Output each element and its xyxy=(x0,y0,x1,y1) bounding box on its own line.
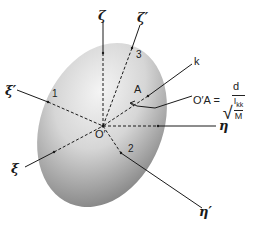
formula-fraction: d √ Ikk M xyxy=(223,80,245,121)
origin-label: O′ xyxy=(95,129,106,140)
point-2 xyxy=(120,152,122,154)
point-a-label: A xyxy=(134,84,141,95)
eta-prime-label: η′ xyxy=(199,205,212,218)
formula-radicand: Ikk M xyxy=(232,95,246,121)
zeta-prime-axis-outer xyxy=(132,25,140,48)
point-a xyxy=(147,95,149,97)
axis-number-1: 1 xyxy=(52,89,58,99)
formula-denominator: √ Ikk M xyxy=(223,93,245,121)
zeta-label: ζ xyxy=(98,9,106,22)
point-1 xyxy=(47,101,49,103)
inertia-subscript: kk xyxy=(236,101,243,108)
zeta-prime-label: ζ′ xyxy=(137,11,148,24)
k-label: k xyxy=(194,56,200,67)
radicand-denominator: M xyxy=(234,110,244,121)
moment-formula: O′A = d √ Ikk M xyxy=(193,80,245,121)
axis-number-3: 3 xyxy=(136,50,142,60)
formula-lhs: O′A = xyxy=(193,94,220,106)
radicand-numerator: Ikk xyxy=(234,96,244,110)
zeta-surface-point xyxy=(102,52,104,54)
formula-numerator: d xyxy=(223,80,245,93)
axis-number-2: 2 xyxy=(128,144,134,154)
eta-surface-point xyxy=(157,125,159,127)
xi-label: ξ xyxy=(11,162,19,175)
point-3 xyxy=(131,47,133,49)
xi-prime-label: ξ′ xyxy=(5,84,16,97)
xi-surface-point xyxy=(53,151,55,153)
xi-prime-axis-outer xyxy=(17,90,48,102)
